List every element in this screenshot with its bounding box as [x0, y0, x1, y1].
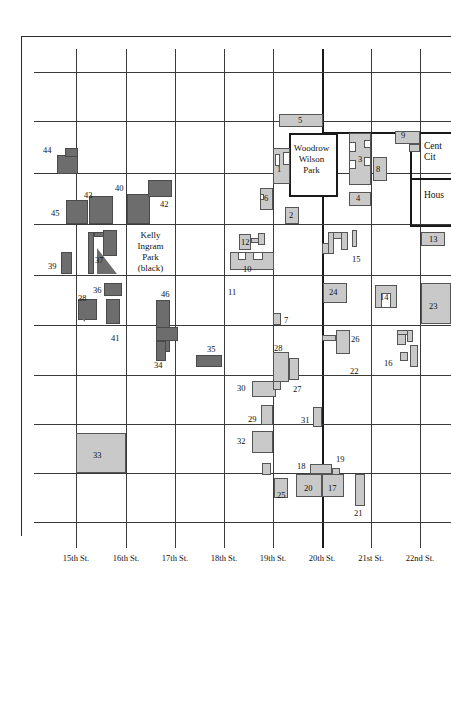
- map-frame-left: [21, 36, 22, 536]
- building-27: [273, 381, 281, 390]
- grid-line-avenue-8: [34, 424, 451, 425]
- building-unlabeled-a: [262, 463, 271, 475]
- building-3-court-a: [349, 142, 356, 152]
- label-building-24: 24: [329, 288, 338, 297]
- label-building-23: 23: [429, 302, 438, 311]
- street-tick-17th: [175, 536, 176, 548]
- label-building-33: 33: [93, 451, 102, 460]
- housing-label: Hous: [424, 190, 444, 201]
- label-building-28: 28: [274, 344, 283, 353]
- building-28: [273, 352, 289, 382]
- label-building-31: 31: [301, 416, 310, 425]
- label-building-19: 19: [336, 455, 345, 464]
- boundary-line-south: [410, 225, 451, 227]
- label-building-45: 45: [51, 209, 60, 218]
- building-21: [355, 474, 365, 506]
- central-city-label: Cent Cit: [424, 141, 442, 163]
- building-10-court-a: [238, 252, 246, 260]
- label-building-2: 2: [289, 211, 293, 220]
- street-tick-21st: [371, 536, 372, 548]
- grid-line-16th: [126, 49, 127, 536]
- label-building-17: 17: [328, 484, 337, 493]
- boundary-line-mid: [410, 178, 451, 180]
- street-label-15th: 15th St.: [63, 553, 89, 563]
- street-label-17th: 17th St.: [162, 553, 188, 563]
- building-16-e: [410, 345, 418, 367]
- building-28-east: [289, 358, 299, 380]
- label-building-42: 42: [160, 200, 169, 209]
- label-building-40: 40: [115, 184, 124, 193]
- building-3-court-d: [364, 157, 371, 166]
- street-label-19th: 19th St.: [260, 553, 286, 563]
- building-3-court-c: [364, 140, 371, 148]
- grid-line-avenue-7: [34, 375, 451, 376]
- label-building-15: 15: [352, 255, 361, 264]
- label-building-10: 10: [243, 265, 252, 274]
- building-26: [336, 330, 350, 354]
- label-building-21: 21: [354, 509, 363, 518]
- street-tick-22nd: [420, 536, 421, 548]
- building-29: [261, 405, 273, 425]
- block-map: 1 2 3 4 5 6 7 8 9 10 11 12 13 14 15 16 1…: [0, 0, 451, 710]
- grid-line-avenue-2: [34, 121, 451, 122]
- building-16-d: [400, 352, 408, 361]
- street-label-20th: 20th St.: [309, 553, 335, 563]
- label-building-37: 37: [95, 256, 104, 265]
- grid-line-avenue-6: [34, 325, 451, 326]
- label-building-13: 13: [429, 235, 438, 244]
- building-32: [252, 431, 273, 453]
- label-building-7: 7: [284, 316, 288, 325]
- street-label-18th: 18th St.: [211, 553, 237, 563]
- label-building-22: 22: [350, 367, 359, 376]
- building-40: [127, 194, 150, 224]
- label-building-14: 14: [380, 293, 389, 302]
- label-building-29: 29: [248, 415, 257, 424]
- building-9-main: [395, 131, 420, 144]
- label-building-8: 8: [376, 165, 380, 174]
- street-tick-15th: [76, 536, 77, 548]
- building-39: [61, 252, 72, 274]
- label-building-44: 44: [43, 146, 52, 155]
- street-label-16th: 16th St.: [113, 553, 139, 563]
- building-31: [313, 407, 322, 427]
- label-building-11: 11: [228, 288, 236, 297]
- grid-line-19th: [273, 49, 274, 536]
- grid-line-avenue-3: [34, 173, 451, 174]
- label-building-9: 9: [401, 131, 405, 140]
- grid-line-avenue-10: [34, 522, 451, 523]
- building-45: [66, 200, 88, 224]
- building-10-court-b: [253, 252, 263, 260]
- building-15-tower: [352, 230, 357, 247]
- boundary-line-north: [322, 132, 451, 134]
- grid-line-avenue-1: [34, 72, 451, 73]
- label-building-30: 30: [237, 384, 246, 393]
- street-tick-19th: [273, 536, 274, 548]
- grid-line-avenue-9: [34, 473, 451, 474]
- building-42: [148, 180, 172, 197]
- building-10: [230, 252, 274, 270]
- label-building-4: 4: [356, 194, 360, 203]
- building-34: [156, 341, 166, 361]
- label-building-46: 46: [161, 290, 170, 299]
- building-44-main: [57, 155, 78, 174]
- label-building-43: 43: [84, 191, 93, 200]
- label-building-3: 3: [358, 155, 362, 164]
- label-building-35: 35: [207, 345, 216, 354]
- building-12-east: [258, 233, 265, 245]
- label-building-20: 20: [304, 484, 313, 493]
- building-38-notch: [78, 315, 85, 322]
- building-26-wing: [322, 335, 336, 341]
- woodrow-wilson-park-label: Woodrow Wilson Park: [281, 143, 342, 176]
- label-building-26: 26: [351, 335, 360, 344]
- building-15-spur: [322, 243, 329, 254]
- grid-line-avenue-4: [34, 224, 451, 225]
- label-building-34: 34: [154, 361, 163, 370]
- building-36: [104, 283, 122, 296]
- building-18: [310, 464, 332, 474]
- label-building-16: 16: [384, 359, 393, 368]
- building-43: [89, 196, 113, 224]
- label-building-12: 12: [241, 238, 250, 247]
- building-44-wing: [65, 148, 78, 157]
- map-frame-top: [21, 36, 451, 37]
- label-building-27: 27: [293, 385, 302, 394]
